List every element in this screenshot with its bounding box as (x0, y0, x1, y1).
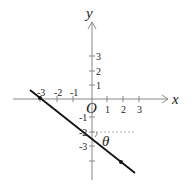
point-on-line (119, 160, 123, 164)
y-axis-label: y (84, 5, 93, 21)
angle-arc (95, 132, 97, 137)
angle-theta-label: θ (102, 133, 110, 149)
y-tick-label: 1 (96, 80, 101, 91)
x-axis-label: x (171, 91, 179, 107)
x-tick-label: 1 (105, 104, 110, 115)
origin-label: O (86, 100, 97, 116)
x-tick-label: -3 (37, 87, 45, 98)
x-tick-label: -2 (54, 87, 62, 98)
y-tick-label: 3 (96, 51, 101, 62)
y-tick-label: -1 (79, 112, 87, 123)
x-tick-label: 3 (137, 104, 142, 115)
x-tick-label: 2 (121, 104, 126, 115)
x-tick-label: -1 (70, 87, 78, 98)
y-tick-label: 2 (96, 66, 101, 77)
y-tick-label: -2 (79, 127, 87, 138)
coordinate-diagram: y x O θ -3 -2 -1 1 2 3 3 2 1 -1 -2 -3 (0, 0, 191, 194)
y-tick-label: -3 (79, 141, 87, 152)
